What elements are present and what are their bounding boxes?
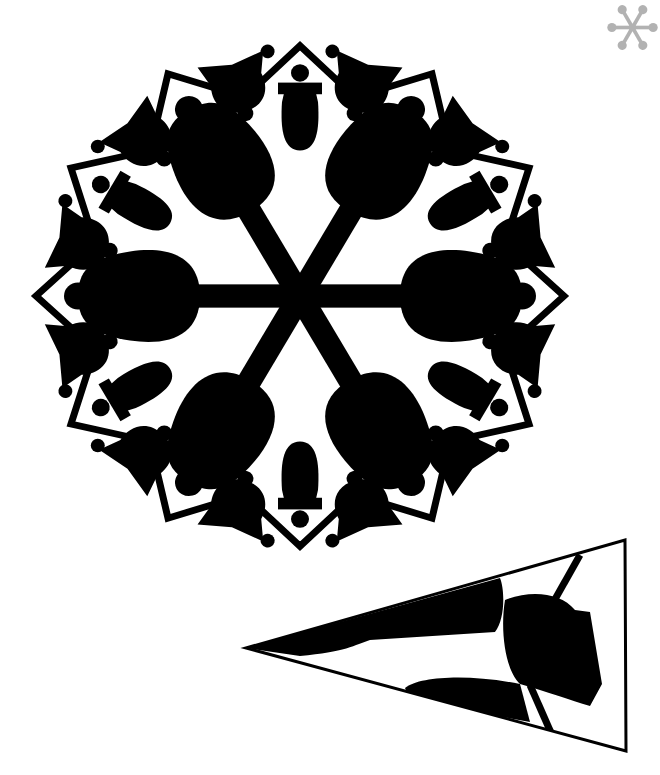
snowflake-template (0, 0, 660, 775)
thumbnail-preview (605, 0, 660, 55)
snowflake (0, 0, 612, 616)
hub (284, 280, 316, 311)
fold-guide (246, 540, 626, 751)
